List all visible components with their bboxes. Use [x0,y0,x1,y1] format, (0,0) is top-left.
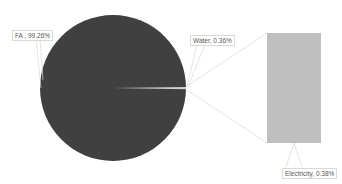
leader-line-electricity-2 [294,143,302,167]
data-label-fa: FA , 99.26% [12,30,53,41]
leader-line-water-2 [188,44,205,87]
bar-electricity [267,33,321,143]
connector-line-bottom [187,90,267,143]
bar-of-pie-chart [0,0,342,184]
data-label-water: Water, 0.36% [190,35,235,46]
data-label-electricity: Electricity, 0.38% [282,168,337,179]
leader-line-electricity [286,143,294,167]
